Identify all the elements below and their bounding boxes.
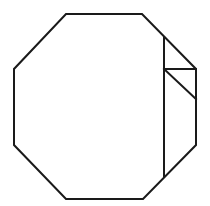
- octagon-diagram: [0, 0, 210, 206]
- octagon-outline: [14, 14, 196, 199]
- diagonal-fold-line: [164, 69, 196, 99]
